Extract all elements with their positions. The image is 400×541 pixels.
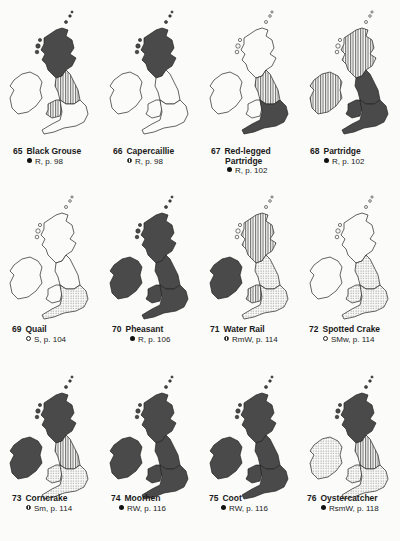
distribution-map bbox=[300, 185, 400, 325]
island bbox=[165, 386, 168, 389]
island bbox=[136, 409, 140, 413]
island bbox=[369, 200, 372, 203]
resident-symbol-icon bbox=[227, 167, 232, 172]
summer-symbol-icon bbox=[26, 336, 31, 341]
island bbox=[36, 229, 40, 233]
island bbox=[236, 229, 240, 233]
scotland-region bbox=[241, 393, 276, 443]
island bbox=[235, 235, 239, 239]
island bbox=[235, 415, 239, 419]
ireland-region bbox=[110, 437, 142, 479]
island bbox=[65, 21, 68, 24]
scotland-region bbox=[41, 28, 76, 78]
island bbox=[65, 386, 68, 389]
island bbox=[265, 206, 268, 209]
distribution-map bbox=[0, 185, 100, 325]
scotland-region bbox=[341, 393, 376, 443]
ireland-region bbox=[10, 72, 42, 114]
island bbox=[35, 235, 39, 239]
island bbox=[336, 44, 340, 48]
island bbox=[69, 200, 72, 203]
ireland-region bbox=[310, 437, 342, 479]
ireland-region bbox=[310, 257, 342, 299]
island bbox=[135, 235, 139, 239]
scotland-region bbox=[41, 393, 76, 443]
island bbox=[271, 376, 273, 378]
island bbox=[271, 11, 273, 13]
island bbox=[369, 15, 372, 18]
distribution-map bbox=[100, 0, 200, 140]
wales-region bbox=[146, 100, 162, 118]
distribution-map bbox=[200, 185, 300, 325]
island bbox=[335, 235, 339, 239]
wales-region bbox=[246, 100, 262, 118]
island bbox=[336, 229, 340, 233]
partial-symbol-icon bbox=[26, 505, 31, 510]
island bbox=[69, 15, 72, 18]
maps-grid: 65Black Grouse R, p. 98 66Capercaillie R… bbox=[0, 0, 400, 541]
island bbox=[71, 11, 73, 13]
island bbox=[35, 50, 39, 54]
island bbox=[371, 196, 373, 198]
island bbox=[338, 403, 341, 406]
island bbox=[138, 403, 141, 406]
ireland-region bbox=[210, 437, 242, 479]
island bbox=[169, 15, 172, 18]
island bbox=[335, 415, 339, 419]
island bbox=[38, 403, 41, 406]
island bbox=[235, 50, 239, 54]
resident-symbol-icon bbox=[221, 505, 226, 510]
island bbox=[271, 196, 273, 198]
resident-symbol-icon bbox=[27, 158, 32, 163]
island bbox=[236, 409, 240, 413]
distribution-map bbox=[0, 365, 100, 505]
island bbox=[336, 409, 340, 413]
scotland-region bbox=[241, 28, 276, 78]
scotland-region bbox=[141, 213, 176, 263]
wales-region bbox=[46, 100, 62, 118]
wales-region bbox=[46, 285, 62, 303]
island bbox=[371, 11, 373, 13]
ireland-region bbox=[110, 72, 142, 114]
island bbox=[269, 200, 272, 203]
island bbox=[36, 44, 40, 48]
scotland-region bbox=[241, 213, 276, 263]
island bbox=[165, 206, 168, 209]
wales-region bbox=[246, 285, 262, 303]
ireland-region bbox=[310, 72, 342, 114]
distribution-map bbox=[300, 365, 400, 505]
wales-region bbox=[346, 100, 362, 118]
island bbox=[165, 21, 168, 24]
wales-region bbox=[346, 285, 362, 303]
ireland-region bbox=[210, 72, 242, 114]
wales-region bbox=[146, 465, 162, 483]
island bbox=[69, 380, 72, 383]
island bbox=[65, 206, 68, 209]
wales-region bbox=[246, 465, 262, 483]
distribution-map bbox=[100, 365, 200, 505]
island bbox=[238, 403, 241, 406]
island bbox=[136, 229, 140, 233]
distribution-map bbox=[0, 0, 100, 140]
partial-symbol-icon bbox=[224, 336, 229, 341]
distribution-map bbox=[300, 0, 400, 140]
island bbox=[369, 380, 372, 383]
island bbox=[135, 415, 139, 419]
island bbox=[365, 21, 368, 24]
island bbox=[365, 206, 368, 209]
island bbox=[171, 196, 173, 198]
island bbox=[169, 200, 172, 203]
island bbox=[138, 38, 141, 41]
distribution-map bbox=[200, 365, 300, 505]
island bbox=[335, 50, 339, 54]
island bbox=[71, 376, 73, 378]
island bbox=[71, 196, 73, 198]
resident-symbol-icon bbox=[130, 336, 135, 341]
ireland-region bbox=[10, 437, 42, 479]
island bbox=[135, 50, 139, 54]
island bbox=[371, 376, 373, 378]
distribution-map bbox=[100, 185, 200, 325]
island bbox=[269, 15, 272, 18]
wales-region bbox=[46, 465, 62, 483]
scotland-region bbox=[141, 28, 176, 78]
